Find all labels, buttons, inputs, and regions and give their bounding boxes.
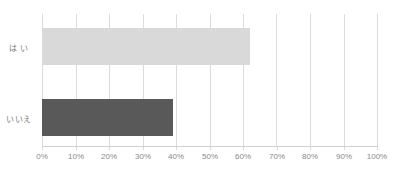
chart-title-clipped <box>0 0 400 1</box>
gridline-80pct <box>310 14 311 146</box>
axis-tick-50pct <box>210 147 211 150</box>
gridline-100pct <box>377 14 378 146</box>
bar-hai[interactable] <box>42 28 250 65</box>
axis-tick-70pct <box>277 147 278 150</box>
axis-tick-10pct <box>76 147 77 150</box>
axis-tick-20pct <box>109 147 110 150</box>
axis-tick-40pct <box>176 147 177 150</box>
plot-area <box>42 14 377 146</box>
axis-tick-90pct <box>344 147 345 150</box>
gridline-90pct <box>344 14 345 146</box>
axis-tick-0pct <box>42 147 43 150</box>
bar-chart: 0%10%20%30%40%50%60%70%80%90%100%は いいいえ <box>0 0 400 175</box>
x-tick-label-100pct: 100% <box>357 152 397 161</box>
category-label-hai: は い <box>0 42 38 53</box>
category-label-iie: いいえ <box>0 113 38 124</box>
bar-iie[interactable] <box>42 99 173 136</box>
axis-tick-30pct <box>143 147 144 150</box>
axis-tick-80pct <box>310 147 311 150</box>
axis-tick-60pct <box>243 147 244 150</box>
axis-tick-100pct <box>377 147 378 150</box>
gridline-70pct <box>276 14 277 146</box>
